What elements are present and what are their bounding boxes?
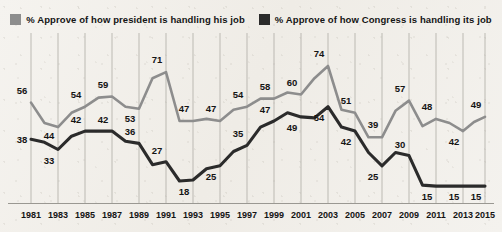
data-label: 25: [368, 171, 379, 182]
x-tick-label: 1993: [183, 210, 203, 220]
x-tick-label: 1999: [264, 210, 284, 220]
x-tick-label: 2007: [372, 210, 392, 220]
series-president-line: [31, 66, 485, 137]
data-label: 27: [152, 145, 163, 156]
data-label: 30: [395, 139, 406, 150]
x-tick-label: 1983: [48, 210, 68, 220]
x-tick-label: 1981: [21, 210, 41, 220]
data-label: 35: [233, 128, 244, 139]
data-label: 60: [287, 77, 298, 88]
data-label: 44: [44, 130, 55, 141]
data-label: 38: [17, 134, 28, 145]
data-label: 25: [206, 171, 217, 182]
data-label: 42: [341, 136, 352, 147]
data-label: 51: [341, 95, 352, 106]
data-label: 48: [422, 101, 433, 112]
data-label: 15: [422, 191, 433, 202]
x-tick-label: 1985: [75, 210, 95, 220]
x-tick-label: 1991: [156, 210, 176, 220]
x-tick-label: 2011: [426, 210, 446, 220]
data-label: 57: [395, 83, 406, 94]
data-label: 74: [314, 48, 325, 59]
x-tick-label: 1997: [237, 210, 257, 220]
data-label: 47: [179, 103, 190, 114]
data-label: 56: [17, 85, 28, 96]
x-tick-label: 2009: [399, 210, 419, 220]
data-label: 47: [206, 103, 217, 114]
x-axis-tick-labels: 1981198319851987198919911993199519971999…: [21, 210, 495, 220]
line-chart: 564454595371474754586074513957484249 383…: [0, 0, 502, 232]
chart-canvas: 564454595371474754586074513957484249 383…: [0, 0, 502, 232]
data-label: 49: [287, 122, 298, 133]
data-label: 36: [125, 126, 136, 137]
x-tick-label: 2003: [318, 210, 338, 220]
data-label: 42: [449, 136, 460, 147]
data-label: 54: [314, 112, 325, 123]
data-label: 58: [260, 81, 271, 92]
x-tick-label: 1995: [210, 210, 230, 220]
series-congress-datalabels: 383342423627182535474954422530151515: [17, 104, 482, 202]
data-label: 53: [125, 113, 136, 124]
data-label: 33: [44, 155, 55, 166]
data-label: 18: [179, 186, 190, 197]
data-label: 54: [71, 89, 82, 100]
data-label: 42: [71, 114, 82, 125]
data-label: 49: [471, 99, 482, 110]
x-tick-label: 2001: [291, 210, 311, 220]
x-tick-label: 2013: [453, 210, 473, 220]
x-tick-label: 1987: [102, 210, 122, 220]
data-label: 15: [471, 191, 482, 202]
x-tick-label: 2005: [345, 210, 365, 220]
data-label: 59: [98, 79, 109, 90]
data-label: 15: [449, 191, 460, 202]
x-tick-label: 1989: [129, 210, 149, 220]
data-label: 47: [260, 104, 271, 115]
data-label: 39: [368, 119, 379, 130]
x-tick-label: 2015: [475, 210, 495, 220]
data-label: 54: [233, 89, 244, 100]
data-label: 42: [98, 114, 109, 125]
data-label: 71: [152, 54, 163, 65]
